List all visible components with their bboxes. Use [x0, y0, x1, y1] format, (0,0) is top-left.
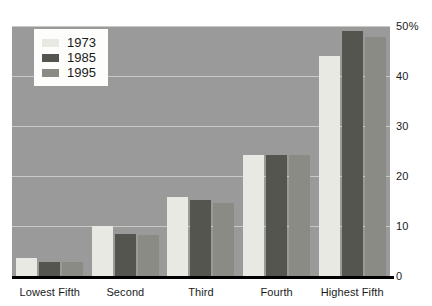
x-axis-tick-label: Lowest Fifth [12, 282, 88, 304]
bar [319, 56, 340, 276]
bar-chart: 01020304050% Lowest FifthSecondThirdFour… [0, 0, 432, 306]
bar [365, 37, 386, 276]
y-axis-tick-label: 30 [396, 121, 409, 132]
bar [266, 155, 287, 277]
bar [342, 31, 363, 276]
y-axis-tick-label: 50% [396, 21, 419, 32]
x-axis-labels: Lowest FifthSecondThirdFourthHighest Fif… [12, 282, 390, 304]
legend-item: 1985 [42, 50, 96, 65]
bar [138, 235, 159, 276]
legend-item-label: 1995 [67, 65, 96, 80]
y-axis-labels: 01020304050% [396, 0, 432, 306]
y-axis-tick-label: 20 [396, 171, 409, 182]
legend-swatch-icon [42, 54, 59, 62]
legend-item: 1973 [42, 35, 96, 50]
bar [115, 234, 136, 276]
y-axis-tick-label: 0 [396, 271, 402, 282]
bar [62, 262, 83, 276]
legend-item-label: 1973 [67, 35, 96, 50]
x-axis-line [12, 276, 394, 279]
legend-item: 1995 [42, 65, 96, 80]
bar [92, 226, 113, 276]
bar [213, 203, 234, 276]
bar-group [314, 26, 390, 276]
legend-swatch-icon [42, 39, 59, 47]
legend: 197319851995 [34, 29, 108, 86]
x-axis-tick-label: Fourth [239, 282, 315, 304]
bar [39, 262, 60, 276]
y-axis-tick-label: 10 [396, 221, 409, 232]
bar [190, 200, 211, 276]
legend-swatch-icon [42, 69, 59, 77]
bar [243, 155, 264, 277]
bar [16, 258, 37, 276]
x-axis-tick-label: Third [163, 282, 239, 304]
x-axis-tick-label: Second [88, 282, 164, 304]
bar [167, 197, 188, 276]
bar-group [239, 26, 315, 276]
x-axis-tick-label: Highest Fifth [314, 282, 390, 304]
bar-group [163, 26, 239, 276]
legend-item-label: 1985 [67, 50, 96, 65]
y-axis-tick-label: 40 [396, 71, 409, 82]
bar [289, 155, 310, 277]
